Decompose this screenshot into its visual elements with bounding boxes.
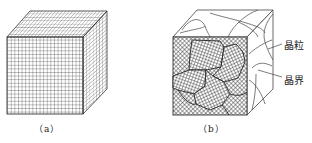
label-grain: 晶粒 [284,37,304,52]
cube-a-front-face [7,37,83,114]
polycrystal-cube [173,10,282,115]
single-crystal-cube [7,11,107,114]
grain [189,40,224,70]
label-grain-boundary: 晶界 [284,72,304,87]
caption-a: （a） [34,122,60,135]
caption-b: （b） [198,122,225,135]
